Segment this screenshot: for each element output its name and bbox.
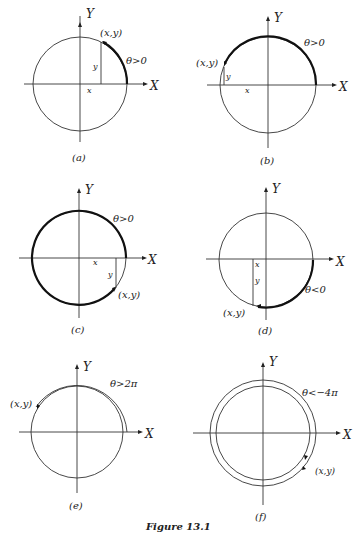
angle-arc: [225, 36, 316, 85]
y-label: y: [92, 62, 98, 71]
x-axis-arrow-icon: [336, 431, 341, 435]
angle-label: θ<0: [305, 284, 326, 295]
x-axis-arrow-icon: [143, 82, 148, 86]
angle-arc: [103, 42, 127, 84]
point-label: (x,y): [223, 307, 245, 318]
angle-label: θ>0: [126, 55, 147, 66]
x-axis-arrow-icon: [329, 257, 334, 261]
y-axis-label: Y: [83, 360, 92, 374]
point-label: (x,y): [196, 57, 218, 68]
point-label: (x,y): [10, 398, 32, 409]
panel-label: (c): [71, 324, 85, 335]
x-label: x: [245, 86, 250, 95]
angle-label: θ>2π: [110, 378, 138, 389]
figure-caption: Figure 13.1: [145, 521, 211, 532]
y-label: y: [107, 270, 113, 279]
x-axis-label: X: [147, 253, 157, 267]
x-axis-arrow-icon: [138, 430, 143, 434]
panel-a: Y X (x,y) θ>0 y x (a): [24, 7, 159, 163]
y-axis-arrow-icon: [264, 187, 268, 192]
arc-arrow-icon: [304, 455, 308, 460]
x-axis-label: X: [144, 427, 154, 441]
y-axis-label: Y: [86, 7, 95, 21]
second-revolution-arc: [36, 385, 127, 432]
x-axis-label: X: [335, 255, 345, 269]
panel-e: Y X (x,y) θ>2π (e): [10, 360, 154, 511]
x-axis-label: X: [342, 428, 352, 442]
panel-label: (e): [69, 500, 83, 511]
panel-f: Y X (x,y) θ<−4π (f): [193, 355, 352, 522]
x-axis-arrow-icon: [332, 83, 337, 87]
y-axis-arrow-icon: [261, 362, 265, 367]
figure-13-1: Y X (x,y) θ>0 y x (a) Y X (x,y) θ>0 y x …: [0, 0, 363, 541]
y-axis-label: Y: [85, 183, 94, 197]
angle-label: θ>0: [304, 37, 325, 48]
y-axis-label: Y: [274, 11, 283, 25]
point-label: (x,y): [315, 466, 336, 476]
y-axis-label: Y: [269, 355, 278, 369]
y-axis-arrow-icon: [77, 188, 81, 193]
angle-label: θ<−4π: [302, 387, 338, 398]
y-axis-arrow-icon: [266, 16, 270, 21]
y-axis-arrow-icon: [78, 22, 82, 27]
x-label: x: [87, 86, 92, 95]
y-axis-label: Y: [272, 182, 281, 196]
x-label: x: [93, 258, 98, 267]
panel-label: (b): [260, 155, 274, 166]
angle-label: θ>0: [113, 213, 134, 224]
panel-label: (a): [72, 152, 86, 163]
panel-label: (d): [258, 325, 272, 336]
point-label: (x,y): [118, 289, 140, 300]
point-label: (x,y): [100, 27, 122, 38]
x-axis-label: X: [338, 80, 348, 94]
x-label: x: [255, 260, 260, 269]
y-axis-arrow-icon: [75, 364, 79, 369]
panel-c: Y X (x,y) θ>0 y x (c): [19, 183, 157, 335]
y-label: y: [254, 276, 260, 285]
panel-b: Y X (x,y) θ>0 y x (b): [196, 11, 348, 166]
x-axis-arrow-icon: [142, 256, 147, 260]
panel-label: (f): [255, 511, 267, 522]
y-label: y: [225, 72, 231, 81]
x-axis-label: X: [149, 79, 159, 93]
panel-d: Y X (x,y) θ<0 y x (d): [206, 182, 345, 336]
